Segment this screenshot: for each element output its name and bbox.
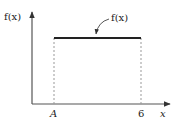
uniform-distribution-diagram: f(x) f(x) A 6 x <box>0 0 180 120</box>
y-axis-label: f(x) <box>4 11 21 22</box>
tick-label-a: A <box>49 108 57 119</box>
pointer-arrow <box>96 19 109 34</box>
tick-label-6: 6 <box>138 108 144 119</box>
x-axis-label: x <box>160 108 166 119</box>
curve-label: f(x) <box>111 12 128 23</box>
